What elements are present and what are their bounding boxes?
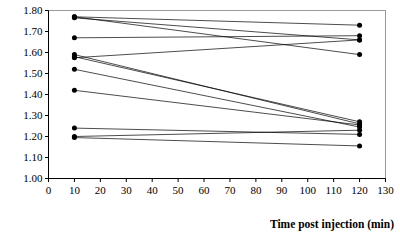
x-tick-label: 30	[121, 184, 133, 196]
x-tick-label: 40	[147, 184, 159, 196]
data-point-marker	[72, 35, 77, 40]
x-axis-title: Time post injection (min)	[270, 218, 394, 231]
x-tick-label: 50	[173, 184, 185, 196]
data-point-marker	[72, 14, 77, 19]
data-point-marker	[72, 55, 77, 60]
y-tick-label: 1.30	[23, 109, 43, 121]
y-tick-label: 1.70	[23, 25, 43, 37]
x-tick-label: 110	[326, 184, 343, 196]
y-tick-label: 1.40	[23, 88, 43, 100]
data-point-marker	[357, 143, 362, 148]
y-tick-label: 1.10	[23, 151, 43, 163]
y-tick-label: 1.00	[23, 172, 43, 184]
data-point-marker	[357, 23, 362, 28]
data-point-marker	[357, 128, 362, 133]
x-tick-label: 20	[95, 184, 107, 196]
x-tick-label: 70	[224, 184, 236, 196]
y-tick-label: 1.50	[23, 67, 43, 79]
x-tick-label: 0	[46, 184, 52, 196]
y-tick-label: 1.60	[23, 46, 43, 58]
x-tick-label: 90	[276, 184, 288, 196]
data-point-marker	[72, 135, 77, 140]
y-tick-label: 1.20	[23, 130, 43, 142]
x-tick-label: 100	[299, 184, 316, 196]
y-tick-label: 1.80	[23, 4, 43, 16]
x-tick-label: 10	[69, 184, 81, 196]
chart-container: 1.001.101.201.301.401.501.601.701.80 010…	[0, 0, 400, 235]
data-point-marker	[72, 88, 77, 93]
x-tick-label: 80	[250, 184, 262, 196]
x-tick-label: 120	[351, 184, 368, 196]
data-point-marker	[357, 122, 362, 127]
data-point-marker	[357, 52, 362, 57]
x-tick-label: 130	[377, 184, 394, 196]
line-chart: 1.001.101.201.301.401.501.601.701.80 010…	[0, 0, 400, 235]
y-axis-tick-labels: 1.001.101.201.301.401.501.601.701.80	[23, 4, 43, 184]
data-point-marker	[72, 67, 77, 72]
data-point-marker	[357, 37, 362, 42]
data-point-marker	[72, 126, 77, 131]
x-tick-label: 60	[199, 184, 211, 196]
